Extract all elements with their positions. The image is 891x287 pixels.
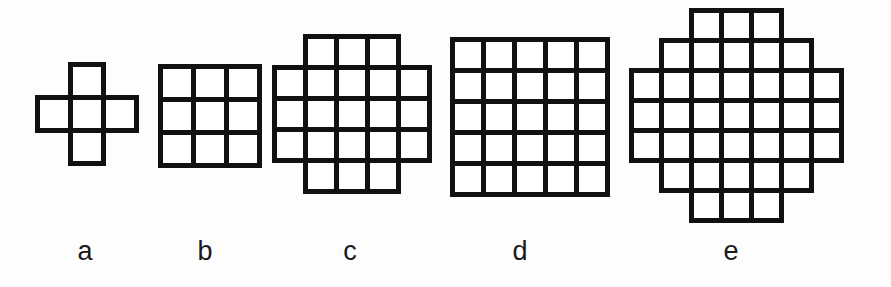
grid-cell	[576, 163, 607, 194]
figure-canvas: abcde	[0, 0, 891, 287]
grid-cell	[193, 66, 226, 99]
grid-cell	[160, 99, 193, 132]
grid-cell	[691, 130, 721, 160]
grid-cell	[483, 101, 514, 132]
shape-c-5x5-corners-removed	[272, 34, 432, 194]
grid-cell	[751, 40, 781, 70]
grid-cell	[483, 132, 514, 163]
grid-cell	[514, 39, 545, 70]
grid-cell	[751, 100, 781, 130]
grid-cell	[751, 130, 781, 160]
grid-cell	[631, 100, 661, 130]
grid-cell	[452, 39, 483, 70]
grid-cell	[691, 70, 721, 100]
grid-cell	[721, 190, 751, 220]
grid-cell	[367, 67, 398, 98]
shape-label-a: a	[55, 238, 115, 265]
grid-cell	[545, 39, 576, 70]
grid-cell	[721, 100, 751, 130]
grid-cell	[367, 129, 398, 160]
grid-cell	[305, 36, 336, 67]
grid-cell	[398, 129, 429, 160]
grid-cell	[811, 100, 841, 130]
grid-cell	[751, 160, 781, 190]
grid-cell	[160, 132, 193, 165]
shape-label-b: b	[175, 238, 235, 265]
grid-cell	[193, 99, 226, 132]
shape-a-plus-pentomino	[35, 62, 139, 166]
grid-cell	[452, 132, 483, 163]
shape-c-5x5-corners-removed-svg	[272, 34, 432, 194]
grid-cell	[514, 101, 545, 132]
grid-cell	[483, 70, 514, 101]
grid-cell	[721, 40, 751, 70]
shape-a-plus-pentomino-svg	[35, 62, 139, 166]
grid-cell	[305, 160, 336, 191]
grid-cell	[751, 70, 781, 100]
grid-cell	[305, 67, 336, 98]
grid-cell	[631, 130, 661, 160]
grid-cell	[70, 130, 103, 163]
grid-cell	[781, 160, 811, 190]
grid-cell	[661, 130, 691, 160]
grid-cell	[452, 163, 483, 194]
grid-cell	[576, 70, 607, 101]
grid-cell	[336, 160, 367, 191]
shape-e-7x7-octagon-svg	[629, 8, 844, 223]
grid-cell	[398, 98, 429, 129]
grid-cell	[70, 64, 103, 97]
grid-cell	[274, 67, 305, 98]
grid-cell	[483, 39, 514, 70]
grid-cell	[781, 40, 811, 70]
grid-cell	[545, 70, 576, 101]
grid-cell	[811, 70, 841, 100]
grid-cell	[751, 190, 781, 220]
grid-cell	[576, 101, 607, 132]
grid-cell	[751, 10, 781, 40]
grid-cell	[631, 70, 661, 100]
grid-cell	[103, 97, 136, 130]
grid-cell	[514, 163, 545, 194]
grid-cell	[398, 67, 429, 98]
grid-cell	[336, 36, 367, 67]
grid-cell	[514, 132, 545, 163]
grid-cell	[226, 99, 259, 132]
grid-cell	[661, 70, 691, 100]
grid-cell	[721, 10, 751, 40]
grid-cell	[336, 129, 367, 160]
grid-cell	[691, 190, 721, 220]
grid-cell	[226, 132, 259, 165]
grid-cell	[721, 70, 751, 100]
shape-label-e: e	[701, 238, 761, 265]
shape-d-5x5-square-svg	[450, 37, 610, 197]
grid-cell	[781, 100, 811, 130]
grid-cell	[483, 163, 514, 194]
grid-cell	[545, 132, 576, 163]
grid-cell	[781, 130, 811, 160]
grid-cell	[691, 100, 721, 130]
grid-cell	[336, 98, 367, 129]
grid-cell	[545, 101, 576, 132]
grid-cell	[514, 70, 545, 101]
grid-cell	[452, 70, 483, 101]
shape-e-7x7-octagon	[629, 8, 844, 223]
grid-cell	[452, 101, 483, 132]
grid-cell	[193, 132, 226, 165]
grid-cell	[721, 130, 751, 160]
grid-cell	[226, 66, 259, 99]
grid-cell	[367, 36, 398, 67]
grid-cell	[70, 97, 103, 130]
grid-cell	[661, 160, 691, 190]
shape-b-3x3-square-svg	[158, 64, 262, 168]
shape-b-3x3-square	[158, 64, 262, 168]
grid-cell	[160, 66, 193, 99]
grid-cell	[811, 130, 841, 160]
grid-cell	[305, 98, 336, 129]
grid-cell	[721, 160, 751, 190]
grid-cell	[336, 67, 367, 98]
shape-label-d: d	[490, 238, 550, 265]
grid-cell	[661, 100, 691, 130]
grid-cell	[274, 98, 305, 129]
grid-cell	[367, 98, 398, 129]
grid-cell	[367, 160, 398, 191]
